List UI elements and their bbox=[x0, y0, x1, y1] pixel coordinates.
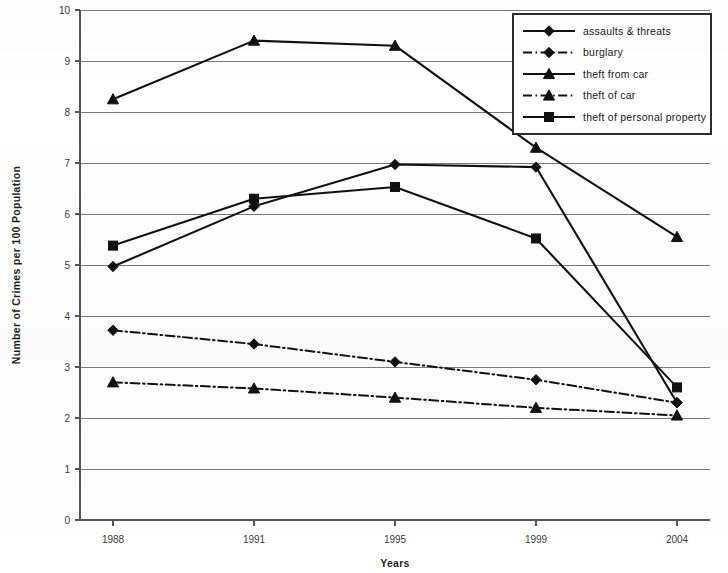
data-point-marker bbox=[391, 182, 400, 191]
y-tick-label: 1 bbox=[64, 464, 70, 475]
x-tick-label: 1999 bbox=[525, 534, 548, 545]
x-tick-label: 1991 bbox=[243, 534, 266, 545]
y-axis-ticks: 012345678910 bbox=[59, 5, 80, 526]
chart-legend: assaults & threatsburglarytheft from car… bbox=[513, 14, 711, 134]
y-tick-label: 2 bbox=[64, 413, 70, 424]
y-tick-label: 5 bbox=[64, 260, 70, 271]
y-tick-label: 4 bbox=[64, 311, 70, 322]
y-tick-label: 7 bbox=[64, 158, 70, 169]
data-point-marker bbox=[532, 234, 541, 243]
legend-label: assaults & threats bbox=[583, 25, 671, 37]
legend-label: theft of personal property bbox=[583, 111, 707, 123]
y-tick-label: 9 bbox=[64, 56, 70, 67]
y-tick-label: 3 bbox=[64, 362, 70, 373]
y-tick-label: 6 bbox=[64, 209, 70, 220]
legend-label: theft from car bbox=[583, 68, 649, 80]
line-chart: 012345678910 19881991199519992004 Number… bbox=[0, 0, 728, 573]
legend-label: theft of car bbox=[583, 89, 636, 101]
x-axis-title: Years bbox=[380, 557, 410, 569]
data-point-marker bbox=[545, 113, 554, 122]
x-tick-label: 1995 bbox=[384, 534, 407, 545]
chart-container: 012345678910 19881991199519992004 Number… bbox=[0, 0, 728, 573]
x-tick-label: 1988 bbox=[102, 534, 125, 545]
y-tick-label: 8 bbox=[64, 107, 70, 118]
x-tick-label: 2004 bbox=[666, 534, 689, 545]
x-axis-ticks: 19881991199519992004 bbox=[102, 520, 689, 545]
data-point-marker bbox=[250, 194, 259, 203]
legend-label: burglary bbox=[583, 46, 623, 58]
y-axis-title: Number of Crimes per 100 Population bbox=[10, 166, 22, 364]
data-point-marker bbox=[673, 383, 682, 392]
data-point-marker bbox=[109, 241, 118, 250]
y-tick-label: 0 bbox=[64, 515, 70, 526]
y-tick-label: 10 bbox=[59, 5, 71, 16]
